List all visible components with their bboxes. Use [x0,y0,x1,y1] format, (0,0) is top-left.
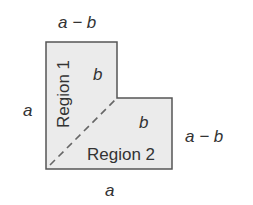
label-right: a − b [185,127,223,146]
label-region-1: Region 1 [54,60,73,128]
label-bottom: a [105,181,114,200]
l-shape-diagram: a − b a a − b a b b Region 1 Region 2 [0,0,253,205]
label-inner-right: b [139,113,148,132]
label-inner-top: b [93,65,102,84]
label-region-2: Region 2 [87,145,155,164]
label-top: a − b [58,13,96,32]
label-left: a [23,101,32,120]
